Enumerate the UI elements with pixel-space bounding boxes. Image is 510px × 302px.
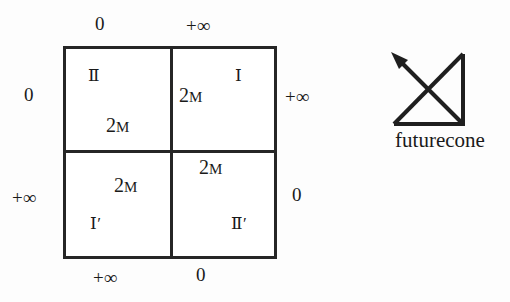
future-cone-legend: futurecone: [378, 48, 506, 148]
edge-label-right-top: +∞: [285, 87, 309, 106]
region-label-bottom-left: Ⅰ′: [90, 215, 101, 232]
edge-label-left-bottom: +∞: [12, 188, 36, 207]
region-label-top-left: Ⅱ: [88, 67, 100, 84]
figure-canvas: 0 +∞ +∞ 0 0 +∞ +∞ 0 Ⅱ 2M Ⅰ 2M Ⅰ′ 2M Ⅱ′ 2…: [0, 0, 510, 302]
mass-unit-bottom-right: M: [209, 161, 223, 177]
future-cone-caption: futurecone: [370, 130, 510, 151]
edge-label-right-bottom: 0: [292, 185, 302, 204]
edge-label-top-left: 0: [95, 14, 105, 33]
region-label-top-right: Ⅰ: [235, 67, 242, 84]
quadrant-top-right: Ⅰ 2M: [173, 49, 277, 150]
mass-unit-bottom-left: M: [124, 179, 138, 195]
quadrant-bottom-right: Ⅱ′ 2M: [173, 153, 277, 254]
region-label-bottom-right: Ⅱ′: [231, 215, 247, 232]
mass-value-bottom-left: 2: [114, 174, 124, 196]
mass-label-bottom-left: 2M: [114, 175, 138, 195]
mass-unit-top-left: M: [116, 119, 130, 135]
mass-label-top-right: 2M: [179, 85, 203, 105]
future-light-cone-arrow-icon: [378, 48, 482, 134]
edge-label-bottom-right: 0: [196, 265, 206, 284]
mass-label-bottom-right: 2M: [199, 157, 223, 177]
quadrant-top-left: Ⅱ 2M: [66, 49, 170, 150]
mass-value-bottom-right: 2: [199, 156, 209, 178]
mass-value-top-right: 2: [179, 84, 189, 106]
edge-label-left-top: 0: [24, 85, 34, 104]
quadrant-bottom-left: Ⅰ′ 2M: [66, 153, 170, 254]
edge-label-top-right: +∞: [186, 16, 210, 35]
mass-unit-top-right: M: [189, 89, 203, 105]
mass-label-top-left: 2M: [106, 115, 130, 135]
block-diagram-frame: Ⅱ 2M Ⅰ 2M Ⅰ′ 2M Ⅱ′ 2M: [63, 46, 277, 259]
mass-value-top-left: 2: [106, 114, 116, 136]
edge-label-bottom-left: +∞: [93, 268, 117, 287]
